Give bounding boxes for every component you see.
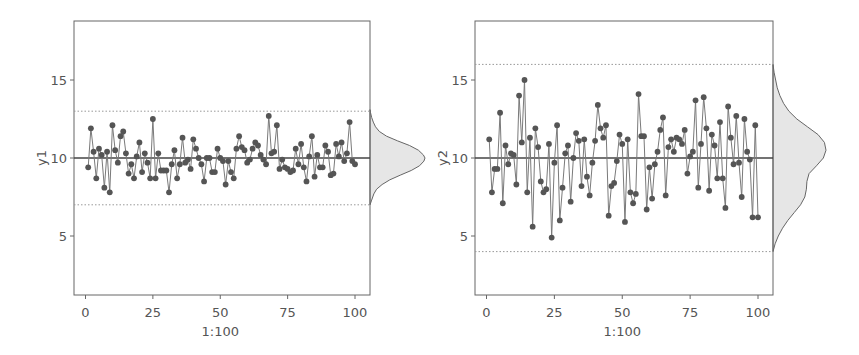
data-point (641, 133, 647, 139)
data-point (668, 136, 674, 142)
data-point (234, 146, 240, 152)
x-tick-label: 0 (482, 305, 490, 320)
data-point (312, 174, 318, 180)
data-point (120, 129, 126, 135)
x-axis-title: 1:100 (604, 324, 641, 339)
data-point (614, 158, 620, 164)
data-point (557, 218, 563, 224)
data-point (123, 150, 129, 156)
x-axis-title: 1:100 (202, 324, 239, 339)
data-point (231, 175, 237, 181)
data-point (271, 149, 277, 155)
data-point (627, 189, 633, 195)
data-point (196, 155, 202, 161)
x-tick-label: 100 (343, 305, 368, 320)
data-point (568, 199, 574, 205)
marginal-density-y1 (370, 110, 425, 205)
data-point (660, 115, 666, 121)
data-point (91, 149, 97, 155)
y-axis-title: y1 (34, 150, 49, 166)
data-point (99, 152, 105, 158)
data-point (630, 200, 636, 206)
data-point (304, 179, 310, 185)
data-point (701, 94, 707, 100)
data-point (524, 189, 530, 195)
data-point (296, 161, 302, 167)
data-point (570, 155, 576, 161)
data-point (500, 200, 506, 206)
data-point (228, 169, 234, 175)
data-point (532, 125, 538, 131)
data-point (306, 154, 312, 160)
data-point (198, 161, 204, 167)
data-point (551, 160, 557, 166)
data-point (220, 158, 226, 164)
x-tick-label: 100 (746, 305, 771, 320)
y-tick-label: 5 (460, 229, 468, 244)
data-point (600, 135, 606, 141)
data-point (96, 146, 102, 152)
data-point (212, 169, 218, 175)
data-point (723, 205, 729, 211)
data-point (649, 196, 655, 202)
data-point (188, 166, 194, 172)
data-point (560, 185, 566, 191)
data-point (147, 175, 153, 181)
data-point (592, 138, 598, 144)
marginal-density-y2 (773, 64, 826, 251)
data-point (519, 140, 525, 146)
data-point (163, 168, 169, 174)
x-tick-label: 25 (145, 305, 162, 320)
data-point (671, 149, 677, 155)
data-point (274, 122, 280, 128)
data-point (314, 152, 320, 158)
data-point (554, 122, 560, 128)
data-point (104, 149, 110, 155)
data-point (603, 122, 609, 128)
data-point (153, 175, 159, 181)
data-point (185, 157, 191, 163)
data-point (728, 135, 734, 141)
x-tick-label: 0 (81, 305, 89, 320)
x-tick-label: 50 (614, 305, 631, 320)
data-point (301, 164, 307, 170)
data-point (223, 182, 229, 188)
data-point (150, 116, 156, 122)
data-point (322, 143, 328, 149)
data-point (647, 164, 653, 170)
data-point (666, 144, 672, 150)
data-point (207, 155, 213, 161)
data-point (174, 175, 180, 181)
data-point (85, 164, 91, 170)
data-point (298, 141, 304, 147)
data-point (685, 171, 691, 177)
data-point (538, 179, 544, 185)
data-point (576, 138, 582, 144)
data-point (331, 171, 337, 177)
data-point (744, 149, 750, 155)
data-point (750, 214, 756, 220)
data-point (709, 132, 715, 138)
data-point (155, 150, 161, 156)
x-tick-label: 75 (682, 305, 699, 320)
data-point (739, 194, 745, 200)
data-point (88, 125, 94, 131)
x-tick-label: 75 (279, 305, 296, 320)
chart-panel-y2: 5101502550751001:100y2 (435, 21, 826, 339)
data-point (101, 185, 107, 191)
data-point (336, 154, 342, 160)
data-point (652, 161, 658, 167)
data-point (115, 160, 121, 166)
data-point (339, 140, 345, 146)
data-point (589, 160, 595, 166)
data-point (325, 149, 331, 155)
data-point (742, 116, 748, 122)
data-point (344, 150, 350, 156)
data-point (706, 188, 712, 194)
data-point (201, 179, 207, 185)
data-point (497, 110, 503, 116)
y-tick-label: 15 (451, 73, 468, 88)
data-point (522, 77, 528, 83)
x-tick-label: 50 (212, 305, 229, 320)
data-point (516, 93, 522, 99)
